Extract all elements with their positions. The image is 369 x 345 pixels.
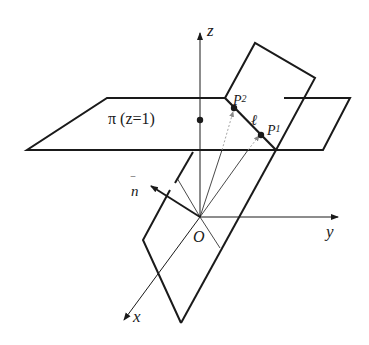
label-ell: ℓ: [251, 112, 257, 128]
label-plane-pi: π (z=1): [108, 110, 155, 128]
point-z1: [197, 117, 203, 123]
label-y: y: [324, 222, 334, 241]
plane-pi: [27, 98, 350, 150]
label-p1: P1: [266, 123, 281, 138]
label-z: z: [206, 21, 214, 40]
point-p1: [258, 132, 264, 138]
x-axis: [124, 217, 200, 320]
plane-tilted: [143, 43, 315, 323]
label-p2: P2: [232, 93, 247, 108]
label-x: x: [132, 307, 141, 326]
label-origin: O: [193, 228, 205, 245]
